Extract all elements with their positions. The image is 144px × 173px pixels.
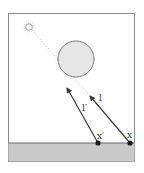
ground-surface — [9, 143, 135, 162]
point-x-prime — [95, 140, 100, 145]
label-l: l — [99, 93, 102, 103]
scene-frame — [9, 14, 135, 162]
shadow-diagram: l′ l x′ x — [0, 0, 144, 173]
label-x-prime: x′ — [97, 131, 104, 141]
point-x — [127, 140, 132, 145]
label-x: x — [127, 130, 132, 140]
label-l-prime: l′ — [82, 103, 87, 113]
occluder-sphere — [58, 41, 94, 77]
